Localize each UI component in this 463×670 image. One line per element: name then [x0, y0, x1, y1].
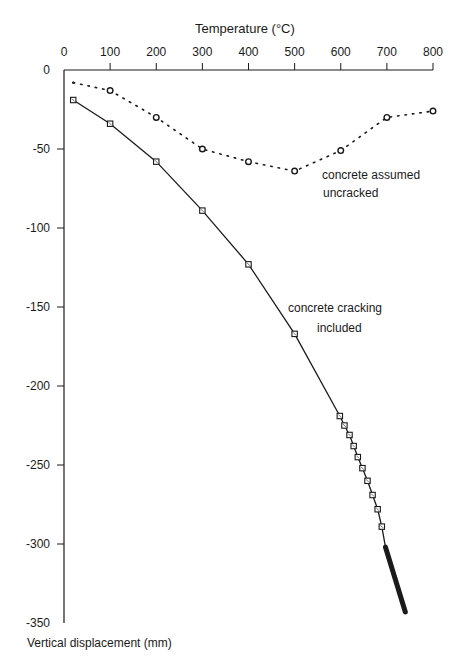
y-tick-label: -50: [10, 142, 50, 156]
chart-area: Temperature (°C) 01002003004005006007008…: [0, 0, 463, 670]
y-tick-label: -200: [10, 379, 50, 393]
x-tick-label: 700: [377, 45, 397, 59]
y-tick-label: 0: [10, 63, 50, 77]
annotation-cracking-line1: concrete cracking: [288, 301, 382, 315]
x-tick-label: 600: [331, 45, 351, 59]
circle-marker: [153, 115, 159, 121]
x-tick-label: 400: [238, 45, 258, 59]
x-tick-label: 800: [423, 45, 443, 59]
y-axis-title: Vertical displacement (mm): [27, 636, 172, 650]
x-tick-label: 500: [285, 45, 305, 59]
series-line-concrete-assumed-uncracked: [73, 83, 433, 171]
plot-svg: [0, 0, 463, 670]
x-tick-label: 100: [100, 45, 120, 59]
y-tick-label: -250: [10, 458, 50, 472]
y-tick-label: -100: [10, 221, 50, 235]
series-point-dot: [72, 81, 74, 83]
series-dense-tail: [385, 547, 405, 612]
x-tick-label: 0: [61, 45, 68, 59]
circle-marker: [107, 88, 113, 94]
circle-marker: [246, 159, 252, 165]
x-axis-title: Temperature (°C): [195, 22, 295, 36]
y-tick-label: -350: [10, 616, 50, 630]
y-tick-label: -300: [10, 537, 50, 551]
circle-marker: [384, 115, 390, 121]
x-tick-label: 200: [146, 45, 166, 59]
circle-marker: [292, 168, 298, 174]
annotation-uncracked-line2: uncracked: [323, 186, 378, 200]
annotation-uncracked-line1: concrete assumed: [322, 168, 420, 182]
circle-marker: [338, 148, 344, 154]
annotation-cracking-line2: included: [317, 321, 362, 335]
circle-marker: [430, 108, 436, 114]
y-tick-label: -150: [10, 300, 50, 314]
circle-marker: [200, 146, 206, 152]
x-tick-label: 300: [192, 45, 212, 59]
